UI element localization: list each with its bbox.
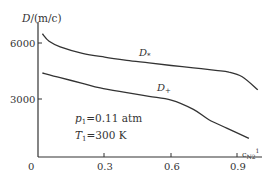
x-axis-title-sub: N2	[246, 153, 255, 160]
series-d-plus-line	[42, 73, 249, 138]
x-tick-label-0.9: 0.9	[230, 161, 246, 172]
series-label-d-star-sub: *	[147, 52, 151, 60]
temperature-value: =300 K	[86, 129, 126, 141]
series-label-d-star-text: D	[139, 47, 147, 58]
y-axis-title: D/(m/c)	[22, 13, 62, 24]
series-label-d-plus-sub: +	[165, 87, 171, 95]
annotation-temperature: T1=300 K	[75, 130, 127, 145]
series-label-d-plus-text: D	[157, 82, 165, 93]
series-label-d-star: D*	[139, 47, 151, 62]
annotation-pressure: p1=0.11 atm	[75, 113, 142, 128]
y-axis-title-unit: /(m/c)	[30, 12, 61, 24]
series-label-d-plus: D+	[157, 82, 171, 97]
x-axis-title-sup: 1	[256, 147, 260, 154]
x-tick-label-0: 0	[28, 161, 34, 172]
pressure-value: =0.11 atm	[86, 112, 142, 124]
pressure-var: p	[75, 112, 82, 124]
x-axis-title: cN21	[242, 145, 259, 162]
y-tick-label-6000: 6000	[10, 38, 35, 49]
x-tick-label-0.6: 0.6	[164, 161, 180, 172]
temperature-var: T	[75, 129, 82, 141]
line-chart	[0, 0, 273, 183]
y-tick-label-3000: 3000	[10, 94, 35, 105]
x-tick-label-0.3: 0.3	[97, 161, 113, 172]
